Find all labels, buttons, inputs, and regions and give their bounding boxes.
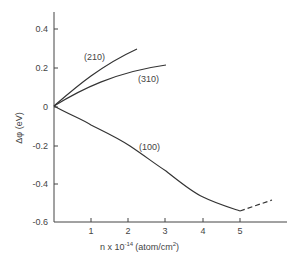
x-tick-label: 1 bbox=[88, 226, 93, 236]
y-axis-title: Δφ (eV) bbox=[14, 112, 24, 143]
x-tick-label: 3 bbox=[162, 226, 167, 236]
series-label-310: (310) bbox=[138, 74, 159, 84]
x-ticks bbox=[91, 218, 240, 222]
x-tick-label: 5 bbox=[237, 226, 242, 236]
y-tick-label: 0.4 bbox=[35, 24, 48, 34]
x-tick-label: 2 bbox=[125, 226, 130, 236]
y-tick-label: 0 bbox=[43, 102, 48, 112]
series-label-210: (210) bbox=[84, 52, 105, 62]
chart: 0.4 0.2 0 -0.2 -0.4 -0.6 1 2 3 4 5 n x 1… bbox=[0, 0, 288, 258]
y-tick-label: -0.2 bbox=[32, 141, 48, 151]
y-tick-label: -0.4 bbox=[32, 179, 48, 189]
y-tick-labels: 0.4 0.2 0 -0.2 -0.4 -0.6 bbox=[32, 24, 48, 227]
x-tick-labels: 1 2 3 4 5 bbox=[88, 226, 242, 236]
series-label-100: (100) bbox=[139, 142, 160, 152]
series-100-extrapolated-line bbox=[240, 200, 272, 211]
series-310-line bbox=[54, 65, 166, 106]
series-100-line bbox=[54, 106, 240, 211]
x-axis-title: n x 10-14(atom/cm2) bbox=[100, 241, 179, 252]
y-tick-label: -0.6 bbox=[32, 217, 48, 227]
x-tick-label: 4 bbox=[200, 226, 205, 236]
y-tick-label: 0.2 bbox=[35, 63, 48, 73]
